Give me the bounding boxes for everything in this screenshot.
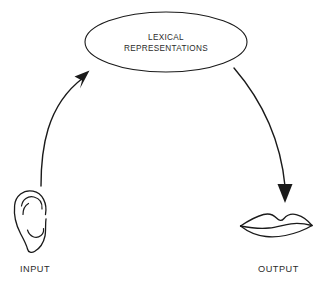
input-label: INPUT xyxy=(20,264,50,274)
input-to-lexical-arrow xyxy=(41,71,90,187)
input-to-lexical-arrow-path xyxy=(41,78,83,186)
lips-icon xyxy=(241,214,313,237)
output-label: OUTPUT xyxy=(258,264,299,274)
lexical-to-output-arrow xyxy=(234,68,293,203)
lexical-representations-node[interactable]: LEXICAL REPRESENTATIONS xyxy=(85,12,247,72)
diagram-canvas: LEXICAL REPRESENTATIONS xyxy=(0,0,335,287)
ear-concha-path xyxy=(28,229,44,238)
lexical-to-output-arrowhead xyxy=(278,184,293,203)
input-to-lexical-arrowhead xyxy=(75,71,90,89)
lexical-node-ellipse xyxy=(85,12,247,72)
lexical-to-output-arrow-path xyxy=(234,68,285,186)
ear-outline-path xyxy=(14,191,46,252)
ear-icon xyxy=(14,191,46,252)
ear-antihelix-path xyxy=(23,204,29,215)
lexical-node-label-line2: REPRESENTATIONS xyxy=(124,44,208,53)
lexical-node-label-line1: LEXICAL xyxy=(148,33,184,42)
speech-processing-diagram: LEXICAL REPRESENTATIONS xyxy=(0,0,335,287)
lips-parting-path xyxy=(241,223,313,228)
